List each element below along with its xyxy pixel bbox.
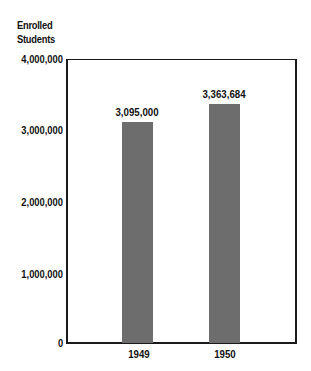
y-tick-3000000: 3,000,000 [21,124,63,136]
y-tick-0: 0 [58,337,63,349]
x-label-1949: 1949 [117,348,161,360]
y-tick-2000000: 2,000,000 [21,196,63,208]
y-tick-4000000: 4,000,000 [21,53,63,65]
y-axis-title-line1: Enrolled [17,18,55,32]
data-label-1949: 3,095,000 [102,106,172,118]
data-label-1950: 3,363,684 [189,88,259,100]
y-tick-1000000: 1,000,000 [21,268,63,280]
y-axis-title-line2: Students [17,32,55,46]
plot-frame [66,59,297,344]
bar-1949 [122,122,153,343]
x-label-1950: 1950 [203,348,247,360]
y-axis-title: Enrolled Students [17,18,55,46]
bar-1950 [209,104,240,343]
